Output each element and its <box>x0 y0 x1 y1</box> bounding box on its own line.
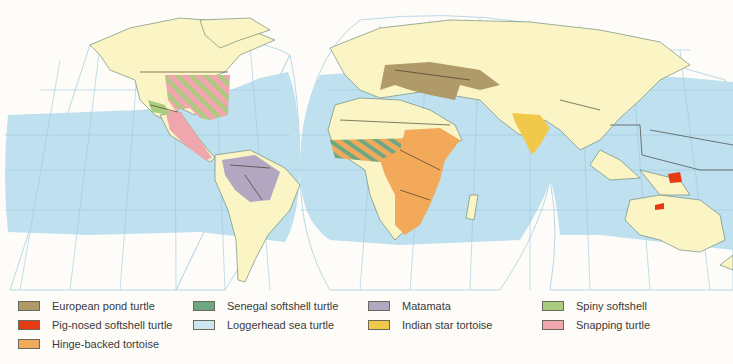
legend-item-indian-star-tortoise: Indian star tortoise <box>368 319 493 331</box>
legend-item-pig-nosed-softshell-turtle: Pig-nosed softshell turtle <box>18 319 172 331</box>
swatch-hinge-backed-tortoise <box>18 339 40 349</box>
swatch-european-pond-turtle <box>18 301 40 311</box>
legend-item-loggerhead-sea-turtle: Loggerhead sea turtle <box>193 319 334 331</box>
map-legend: European pond turtle Pig-nosed softshell… <box>0 296 733 364</box>
swatch-indian-star-tortoise <box>368 320 390 330</box>
swatch-pig-nosed-softshell-turtle <box>18 320 40 330</box>
legend-item-matamata: Matamata <box>368 300 451 312</box>
legend-item-senegal-softshell-turtle: Senegal softshell turtle <box>193 300 338 312</box>
legend-label: Hinge-backed tortoise <box>52 338 159 350</box>
legend-item-snapping-turtle: Snapping turtle <box>542 319 650 331</box>
legend-label: European pond turtle <box>52 300 155 312</box>
legend-label: Snapping turtle <box>576 319 650 331</box>
legend-item-hinge-backed-tortoise: Hinge-backed tortoise <box>18 338 159 350</box>
legend-item-european-pond-turtle: European pond turtle <box>18 300 155 312</box>
swatch-snapping-turtle <box>542 320 564 330</box>
legend-item-spiny-softshell: Spiny softshell <box>542 300 647 312</box>
world-distribution-map <box>0 0 733 300</box>
swatch-matamata <box>368 301 390 311</box>
swatch-loggerhead-sea-turtle <box>193 320 215 330</box>
swatch-senegal-softshell-turtle <box>193 301 215 311</box>
legend-label: Pig-nosed softshell turtle <box>52 319 172 331</box>
legend-label: Spiny softshell <box>576 300 647 312</box>
legend-label: Matamata <box>402 300 451 312</box>
swatch-spiny-softshell <box>542 301 564 311</box>
legend-label: Indian star tortoise <box>402 319 493 331</box>
legend-label: Loggerhead sea turtle <box>227 319 334 331</box>
legend-label: Senegal softshell turtle <box>227 300 338 312</box>
